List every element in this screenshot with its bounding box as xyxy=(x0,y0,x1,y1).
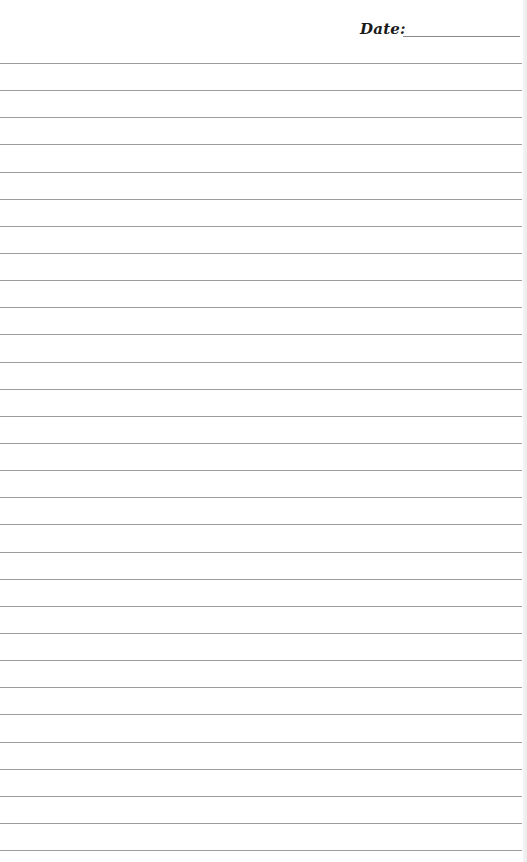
ruled-line xyxy=(0,769,522,770)
page-edge xyxy=(523,0,527,862)
ruled-line xyxy=(0,850,522,851)
ruled-line xyxy=(0,552,522,553)
ruled-line xyxy=(0,524,522,525)
ruled-line xyxy=(0,579,522,580)
ruled-line xyxy=(0,172,522,173)
ruled-line xyxy=(0,714,522,715)
ruled-line xyxy=(0,389,522,390)
ruled-line xyxy=(0,470,522,471)
lined-paper-page: Date: xyxy=(0,0,523,862)
ruled-line xyxy=(0,660,522,661)
ruled-line xyxy=(0,253,522,254)
ruled-line xyxy=(0,63,522,64)
ruled-line xyxy=(0,742,522,743)
ruled-line xyxy=(0,280,522,281)
ruled-line xyxy=(0,687,522,688)
ruled-line xyxy=(0,633,522,634)
ruled-line xyxy=(0,226,522,227)
ruled-line xyxy=(0,362,522,363)
ruled-line xyxy=(0,497,522,498)
ruled-line xyxy=(0,90,522,91)
ruled-line xyxy=(0,307,522,308)
ruled-line xyxy=(0,606,522,607)
ruled-line xyxy=(0,443,522,444)
ruled-line xyxy=(0,416,522,417)
ruled-line xyxy=(0,796,522,797)
ruled-line xyxy=(0,144,522,145)
ruled-line xyxy=(0,199,522,200)
date-field-underline[interactable] xyxy=(403,36,520,37)
ruled-line xyxy=(0,117,522,118)
ruled-line xyxy=(0,334,522,335)
ruled-line xyxy=(0,823,522,824)
date-label: Date: xyxy=(360,20,406,38)
